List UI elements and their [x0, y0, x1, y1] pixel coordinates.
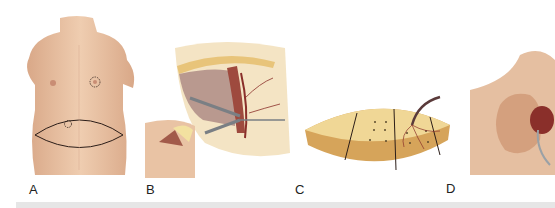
panel-label-b: B	[146, 182, 155, 197]
dissection-illustration	[145, 38, 295, 178]
panel-d	[470, 50, 555, 175]
panel-a	[15, 10, 140, 180]
breast-closeup-illustration	[470, 50, 555, 175]
panel-label-a: A	[29, 182, 38, 197]
torso-illustration	[15, 10, 140, 180]
panel-c	[300, 95, 455, 175]
panel-label-d: D	[446, 181, 455, 196]
panel-b	[145, 38, 295, 178]
panel-label-c: C	[295, 182, 304, 197]
bottom-band	[16, 202, 555, 208]
flap-illustration	[300, 95, 455, 175]
